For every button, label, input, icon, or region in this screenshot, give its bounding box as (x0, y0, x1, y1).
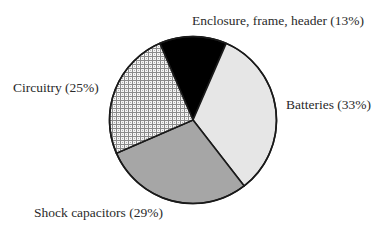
label-batteries: Batteries (33%) (286, 98, 371, 112)
label-enclosure: Enclosure, frame, header (13%) (192, 14, 364, 28)
label-shock-capacitors: Shock capacitors (29%) (34, 206, 163, 220)
pie-chart (0, 0, 379, 231)
pie-slices (110, 37, 277, 204)
label-circuitry: Circuitry (25%) (13, 81, 99, 95)
